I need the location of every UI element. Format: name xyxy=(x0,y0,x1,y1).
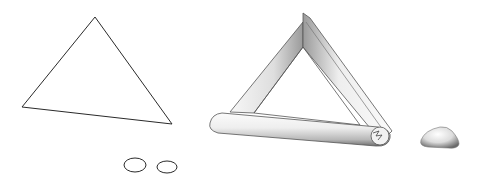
rounded-solid xyxy=(421,127,459,148)
swept-triangle xyxy=(210,13,392,146)
profile-ellipse-2 xyxy=(157,161,177,173)
diagram-canvas xyxy=(0,0,479,191)
path-triangle xyxy=(22,17,172,124)
profile-ellipse-1 xyxy=(124,158,146,172)
